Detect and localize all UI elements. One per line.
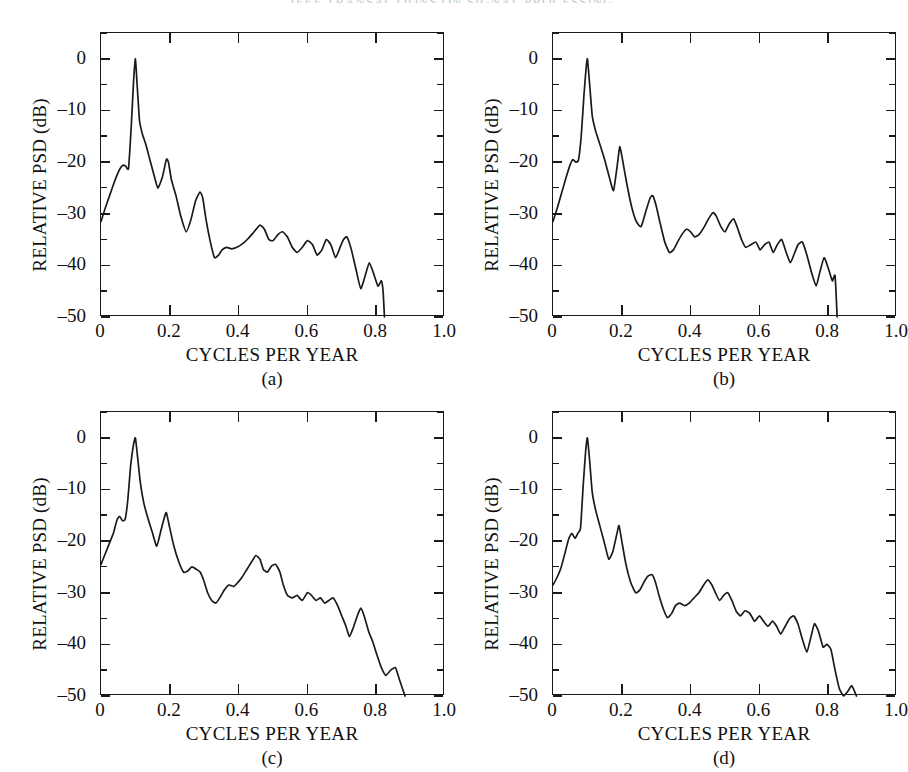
x-tick-label: 0.8 [363,320,387,342]
y-tick-mark-right [889,566,895,567]
y-tick-mark-right [889,514,895,515]
y-tick-mark-right [889,135,895,136]
y-axis-title-a: RELATIVE PSD (dB) [29,65,51,305]
y-tick-mark-right [886,110,895,112]
x-tick-mark-top [690,412,692,422]
y-tick-mark-right [889,187,895,188]
y-tick-mark [553,514,559,515]
y-tick-mark-right [889,290,895,291]
x-tick-label: 0.4 [226,320,250,342]
y-tick-mark-right [434,437,443,439]
x-tick-labels-d: 0 0.2 0.4 0.6 0.8 1.0 [552,699,896,725]
x-tick-label: 0 [547,320,557,342]
y-tick-mark [553,58,562,60]
y-tick-mark [101,290,107,291]
y-tick-mark-right [437,463,443,464]
x-tick-label: 0.2 [609,699,633,721]
y-tick-mark [101,213,110,215]
y-tick-mark-right [434,489,443,491]
x-tick-label: 1.0 [884,320,908,342]
x-axis-title-b: CYCLES PER YEAR [552,344,896,366]
x-tick-label: 0.2 [157,699,181,721]
x-tick-label: 0.6 [747,699,771,721]
y-tick-mark-right [886,592,895,594]
x-tick-label: 0.6 [295,699,319,721]
y-tick-mark-right [434,695,443,697]
x-tick-mark [307,684,309,694]
y-tick-mark-right [437,669,443,670]
y-tick-mark [553,135,559,136]
y-tick-label: –10 [58,98,87,120]
y-tick-mark [553,669,559,670]
plot-frame-c [100,411,444,695]
y-tick-mark-right [437,239,443,240]
y-tick-mark [553,566,559,567]
y-tick-label: –30 [58,202,87,224]
x-tick-mark-top [759,33,761,43]
y-tick-mark [553,265,562,267]
x-tick-label: 0 [547,699,557,721]
y-tick-mark-right [437,566,443,567]
x-tick-mark-top [169,412,171,422]
y-tick-label: 0 [77,426,87,448]
x-tick-label: 0.2 [609,320,633,342]
x-tick-labels-b: 0 0.2 0.4 0.6 0.8 1.0 [552,320,896,346]
y-tick-mark [553,316,562,318]
x-tick-mark-top [238,33,240,43]
x-tick-mark [169,684,171,694]
y-tick-mark [553,32,559,33]
y-tick-mark [553,161,562,163]
y-tick-mark [101,135,107,136]
x-tick-mark-top [375,33,377,43]
x-tick-label: 0.2 [157,320,181,342]
y-axis-title-d: RELATIVE PSD (dB) [481,444,503,684]
y-tick-label: 0 [529,426,539,448]
y-tick-mark-right [434,58,443,60]
y-tick-mark-right [434,110,443,112]
x-tick-mark-top [621,412,623,422]
y-tick-mark [101,84,107,85]
x-tick-label: 0.8 [815,699,839,721]
x-tick-label: 0.8 [363,699,387,721]
y-tick-mark [553,110,562,112]
panel-label-b: (b) [552,368,896,390]
y-tick-mark-right [889,618,895,619]
y-tick-label: –50 [510,684,539,706]
y-tick-mark-right [889,239,895,240]
y-tick-mark [101,540,110,542]
x-tick-mark-top [375,412,377,422]
y-tick-mark-right [434,161,443,163]
x-axis-title-d: CYCLES PER YEAR [552,723,896,745]
y-tick-mark-right [434,265,443,267]
x-tick-label: 0 [95,320,105,342]
y-tick-mark [553,489,562,491]
psd-curve-d [553,412,897,696]
x-tick-mark [759,684,761,694]
y-tick-label: 0 [529,47,539,69]
y-tick-label: –10 [510,98,539,120]
x-axis-title-c: CYCLES PER YEAR [100,723,444,745]
panel-grid: 0 –10 –20 –30 –40 –50 0 0.2 0.4 0.6 0.8 … [0,14,904,772]
y-tick-mark-right [437,32,443,33]
x-tick-labels-c: 0 0.2 0.4 0.6 0.8 1.0 [100,699,444,725]
x-tick-mark-top [621,33,623,43]
y-tick-mark-right [437,187,443,188]
y-tick-label: –20 [510,529,539,551]
y-tick-mark-right [886,437,895,439]
psd-path-c [101,438,405,696]
panel-d: 0 –10 –20 –30 –40 –50 0 0.2 0.4 0.6 0.8 … [452,393,904,772]
y-tick-label: –40 [510,253,539,275]
x-tick-mark [621,305,623,315]
y-tick-mark [553,592,562,594]
y-tick-mark-right [886,316,895,318]
y-tick-mark [553,437,562,439]
psd-path-d [553,438,856,696]
x-tick-mark [690,684,692,694]
y-tick-mark [101,187,107,188]
y-tick-mark-right [889,669,895,670]
y-tick-label: 0 [77,47,87,69]
panel-a: 0 –10 –20 –30 –40 –50 0 0.2 0.4 0.6 0.8 … [0,14,452,393]
y-tick-label: –40 [58,632,87,654]
x-tick-label: 1.0 [884,699,908,721]
